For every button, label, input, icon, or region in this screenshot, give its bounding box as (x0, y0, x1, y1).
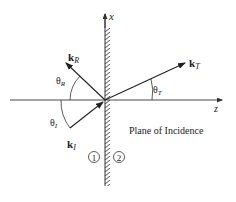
transmitted-vector-label: kT (189, 57, 200, 71)
reflection-angle-arc (70, 76, 80, 100)
incident-vector-label: kI (67, 138, 76, 152)
plane-of-incidence-label: Plane of Incidence (129, 125, 204, 136)
interface-wall (105, 28, 110, 186)
incident-angle-arc (61, 100, 70, 128)
reflection-refraction-diagram: x z kR kI kT θR θI θT Plane of Incidence… (0, 0, 236, 202)
x-axis-label: x (108, 10, 114, 22)
transmitted-wave-vector (105, 63, 185, 100)
incident-angle-label: θI (50, 117, 58, 130)
medium-1-label: 1 (92, 153, 97, 163)
reflection-angle-label: θR (56, 75, 66, 88)
incident-wave-vector (70, 102, 103, 128)
z-axis-label: z (213, 103, 218, 114)
reflected-wave-vector (66, 63, 105, 100)
medium-2-label: 2 (117, 153, 122, 163)
transmission-angle-label: θT (153, 84, 163, 97)
reflected-vector-label: kR (68, 51, 79, 65)
